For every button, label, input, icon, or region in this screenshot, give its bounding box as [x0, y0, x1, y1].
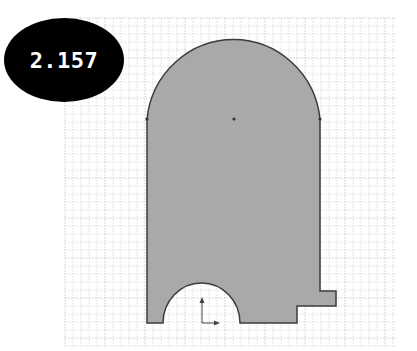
- sketch-profile[interactable]: [147, 40, 336, 323]
- vertex-point[interactable]: [318, 117, 321, 120]
- step-badge: 2.157: [4, 18, 124, 102]
- vertex-point[interactable]: [145, 117, 148, 120]
- step-number: 2.157: [30, 48, 99, 73]
- vertex-point[interactable]: [232, 117, 235, 120]
